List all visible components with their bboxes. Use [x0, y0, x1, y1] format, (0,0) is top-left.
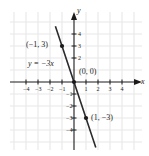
- point-marker-origin: [72, 80, 76, 84]
- point-marker-neg1-3: [60, 44, 64, 48]
- coordinate-plane-svg: [0, 0, 149, 156]
- x-tick-label-neg3: −3: [35, 86, 41, 92]
- y-axis-label: y: [77, 7, 81, 15]
- y-tick-label-2: 2: [78, 55, 81, 61]
- graph-figure: y x −4 −3 −2 −1 1 2 3 4 4 3 2 −1 −2 −3 −…: [0, 0, 149, 156]
- point-label-origin: (0, 0): [79, 68, 96, 76]
- x-tick-label-3: 3: [109, 86, 112, 92]
- equation-label: y = −3x: [28, 60, 54, 68]
- x-tick-label-neg4: −4: [23, 86, 29, 92]
- point-label-1-neg3: (1, −3): [91, 114, 113, 122]
- x-tick-label-neg2: −2: [47, 86, 53, 92]
- point-label-neg1-3: (−1, 3): [26, 41, 48, 49]
- y-tick-label-4: 4: [78, 31, 81, 37]
- x-tick-label-1: 1: [85, 86, 88, 92]
- x-tick-label-4: 4: [121, 86, 124, 92]
- x-axis-label: x: [141, 78, 145, 86]
- point-marker-1-neg3: [84, 116, 88, 120]
- y-tick-label-3: 3: [78, 43, 81, 49]
- y-tick-label-neg2: −2: [66, 103, 72, 109]
- y-tick-label-neg4: −4: [66, 127, 72, 133]
- y-tick-label-neg3: −3: [66, 115, 72, 121]
- x-tick-label-neg1: −1: [59, 86, 65, 92]
- x-tick-label-2: 2: [97, 86, 100, 92]
- y-tick-label-neg1: −1: [66, 91, 72, 97]
